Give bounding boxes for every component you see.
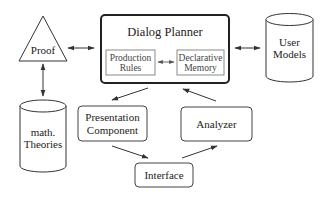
presentation-interface-arrow xyxy=(112,146,148,158)
interface-node: Interface xyxy=(135,163,193,187)
proof-label: Proof xyxy=(31,44,56,56)
presentation-component-line1: Presentation xyxy=(85,111,140,123)
user-models-line1: User xyxy=(279,36,300,48)
declarative-memory-node: Declarative Memory xyxy=(177,50,224,75)
math-theories-node: math. Theories xyxy=(20,100,66,172)
math-theories-line2: Theories xyxy=(24,138,62,150)
dialog-planner-title: Dialog Planner xyxy=(127,25,203,39)
proof-node: Proof xyxy=(19,16,67,61)
interface-analyzer-arrow xyxy=(182,146,217,158)
user-models-node: User Models xyxy=(266,14,313,82)
interface-label: Interface xyxy=(144,169,183,181)
presentation-component-line2: Component xyxy=(87,124,138,136)
production-rules-line1: Production xyxy=(110,53,152,63)
cylinder-top xyxy=(20,100,66,112)
analyzer-label: Analyzer xyxy=(196,118,237,130)
analyzer-planner-arrow xyxy=(183,89,216,101)
declarative-memory-line2: Memory xyxy=(184,63,217,73)
analyzer-node: Analyzer xyxy=(181,107,252,141)
user-models-line2: Models xyxy=(273,48,306,60)
planner-presentation-arrow xyxy=(112,88,148,100)
dialog-planner-node: Dialog Planner Production Rules Declarat… xyxy=(101,15,229,83)
architecture-diagram: Proof Dialog Planner Production Rules De… xyxy=(0,0,327,199)
presentation-component-node: Presentation Component xyxy=(78,106,147,141)
production-rules-line2: Rules xyxy=(120,63,142,73)
production-rules-node: Production Rules xyxy=(106,50,155,75)
declarative-memory-line1: Declarative xyxy=(179,53,223,63)
cylinder-top xyxy=(266,14,313,26)
math-theories-line1: math. xyxy=(31,126,56,138)
